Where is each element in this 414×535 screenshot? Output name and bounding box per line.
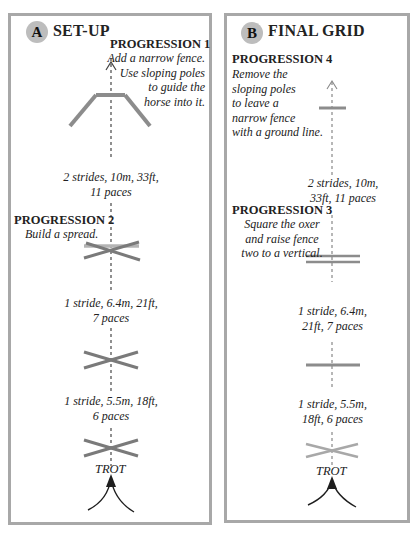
- distance-b-3: 1 stride, 5.5m, 18ft, 6 paces: [280, 397, 385, 426]
- progression-4-line: with a ground line.: [232, 125, 323, 140]
- distance-line: 1 stride, 6.4m, 21ft,: [41, 296, 181, 311]
- distance-b-2: 1 stride, 6.4m, 21ft, 7 paces: [280, 304, 385, 333]
- trot-label-b: TROT: [316, 464, 347, 479]
- distance-line: 11 paces: [41, 185, 181, 200]
- distance-b-1: 2 strides, 10m, 33ft, 11 paces: [288, 176, 398, 205]
- progression-4-text: Remove the sloping poles to leave a narr…: [232, 67, 323, 140]
- distance-line: 1 stride, 5.5m, 18ft,: [41, 394, 181, 409]
- progression-1-line: Add a narrow fence.: [107, 51, 205, 66]
- progression-3-title: PROGRESSION 3: [232, 203, 332, 218]
- progression-4-line: Remove the: [232, 67, 323, 82]
- spread-fence: [84, 242, 140, 260]
- distance-line: 1 stride, 6.4m,: [280, 304, 385, 319]
- progression-4-line: sloping poles: [232, 82, 323, 97]
- distance-a-2: 1 stride, 6.4m, 21ft, 7 paces: [41, 296, 181, 325]
- progression-2-text: Build a spread.: [25, 227, 98, 242]
- distance-line: 21ft, 7 paces: [280, 319, 385, 334]
- distance-line: 18ft, 6 paces: [280, 412, 385, 427]
- progression-1-title: PROGRESSION 1: [110, 37, 205, 52]
- progression-3-line: and raise fence: [236, 232, 328, 247]
- progression-4-title: PROGRESSION 4: [232, 52, 332, 67]
- progression-1-line: horse into it.: [107, 95, 205, 110]
- progression-1-line: to guide the: [107, 80, 205, 95]
- distance-line: 2 strides, 10m, 33ft,: [41, 170, 181, 185]
- panel-b-title: FINAL GRID: [268, 22, 365, 40]
- progression-3-text: Square the oxer and raise fence two to a…: [236, 217, 328, 261]
- progression-2-title: PROGRESSION 2: [14, 213, 114, 228]
- distance-line: 2 strides, 10m,: [288, 176, 398, 191]
- progression-1-text: Add a narrow fence. Use sloping poles to…: [107, 51, 205, 109]
- progression-1-line: Use sloping poles: [107, 66, 205, 81]
- progression-3-line: two to a vertical.: [236, 246, 328, 261]
- progression-4-line: narrow fence: [232, 111, 323, 126]
- badge-b: B: [241, 22, 263, 44]
- distance-a-3: 1 stride, 5.5m, 18ft, 6 paces: [41, 394, 181, 423]
- trot-label-a: TROT: [95, 462, 126, 477]
- progression-3-line: Square the oxer: [236, 217, 328, 232]
- badge-a: A: [26, 21, 48, 43]
- distance-line: 6 paces: [41, 409, 181, 424]
- panel-a-title: SET-UP: [53, 22, 110, 40]
- trot-arrow-icon-a: [88, 474, 134, 512]
- distance-a-1: 2 strides, 10m, 33ft, 11 paces: [41, 170, 181, 199]
- distance-line: 7 paces: [41, 311, 181, 326]
- distance-line: 1 stride, 5.5m,: [280, 397, 385, 412]
- progression-4-line: to leave a: [232, 96, 323, 111]
